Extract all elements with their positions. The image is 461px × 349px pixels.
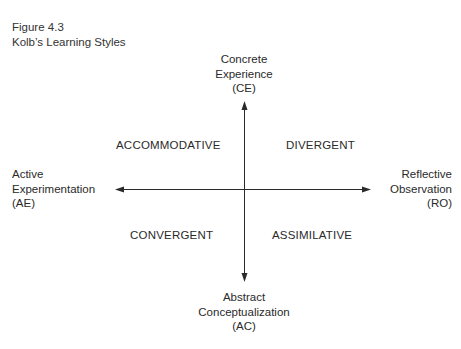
arrow-left-icon	[115, 187, 124, 193]
pole-left-line3: (AE)	[12, 196, 95, 211]
pole-bottom-line3: (AC)	[184, 319, 304, 334]
pole-left-line2: Experimentation	[12, 182, 95, 197]
pole-top-line3: (CE)	[194, 81, 294, 96]
pole-abstract-conceptualization: Abstract Conceptualization (AC)	[184, 290, 304, 334]
pole-top-line2: Experience	[194, 67, 294, 82]
pole-right-line3: (RO)	[366, 196, 452, 211]
quadrant-convergent: CONVERGENT	[130, 229, 213, 241]
pole-bottom-line1: Abstract	[184, 290, 304, 305]
pole-right-line1: Reflective	[366, 167, 452, 182]
quadrant-assimilative: ASSIMILATIVE	[272, 229, 352, 241]
arrow-down-icon	[242, 273, 248, 282]
pole-top-line1: Concrete	[194, 52, 294, 67]
arrow-up-icon	[242, 101, 248, 110]
quadrant-accommodative: ACCOMMODATIVE	[116, 139, 221, 151]
pole-bottom-line2: Conceptualization	[184, 305, 304, 320]
pole-concrete-experience: Concrete Experience (CE)	[194, 52, 294, 96]
pole-left-line1: Active	[12, 167, 95, 182]
quadrant-divergent: DIVERGENT	[286, 139, 355, 151]
pole-reflective-observation: Reflective Observation (RO)	[366, 167, 452, 211]
pole-active-experimentation: Active Experimentation (AE)	[12, 167, 95, 211]
pole-right-line2: Observation	[366, 182, 452, 197]
